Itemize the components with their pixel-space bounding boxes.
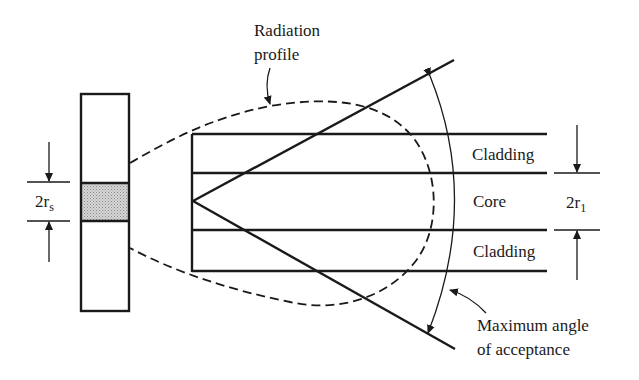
radiation-profile-leader: [267, 68, 270, 104]
core-label: Core: [473, 192, 506, 211]
radiation-profile-curve: [130, 101, 434, 305]
max-angle-label-2: of acceptance: [477, 340, 570, 359]
core-dimension: 2r1: [554, 125, 600, 280]
max-angle-label-1: Maximum angle: [477, 316, 589, 335]
source-emitting-region: [81, 183, 129, 221]
core-dim-subscript: 1: [580, 201, 586, 215]
light-source: [81, 94, 129, 311]
acceptance-cone-lower: [193, 201, 455, 349]
radiation-profile-label-2: profile: [254, 45, 299, 64]
svg-text:2rs: 2rs: [35, 192, 54, 214]
acceptance-angle-arc: [428, 76, 455, 333]
fiber-acceptance-diagram: 2rs 2r1 Radiation profile Cladding Core …: [0, 0, 639, 380]
cladding-bottom-label: Cladding: [473, 242, 536, 261]
radiation-profile-label-1: Radiation: [254, 21, 321, 40]
acceptance-cone-upper: [193, 60, 454, 201]
source-dim-label: 2r: [35, 192, 50, 211]
source-dim-subscript: s: [49, 200, 54, 214]
svg-text:2r1: 2r1: [566, 193, 586, 215]
max-angle-leader: [450, 290, 486, 313]
cladding-top-label: Cladding: [472, 145, 535, 164]
core-dim-label: 2r: [566, 193, 581, 212]
source-dimension: 2rs: [27, 142, 70, 262]
